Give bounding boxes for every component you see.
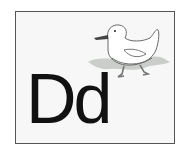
letter-pair: Dd [26,64,109,134]
alphabet-card: Dd [15,11,175,144]
